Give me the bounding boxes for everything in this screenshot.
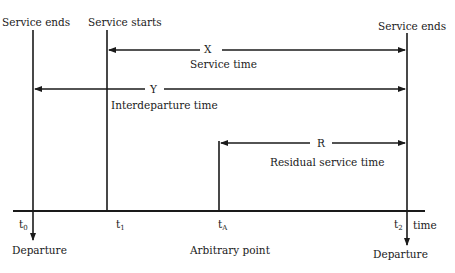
label-service-starts: Service starts bbox=[88, 17, 162, 28]
y-caption-interdeparture-time: Interdeparture time bbox=[111, 100, 218, 111]
label-departure-left: Departure bbox=[12, 245, 67, 256]
tick-t1: t1 bbox=[116, 219, 125, 232]
r-symbol: R bbox=[317, 138, 325, 149]
tick-t2: t2 bbox=[394, 219, 403, 232]
x-caption-service-time: Service time bbox=[190, 59, 257, 70]
x-symbol: X bbox=[204, 44, 211, 55]
r-caption-residual-service-time: Residual service time bbox=[270, 157, 384, 168]
label-service-ends-right: Service ends bbox=[378, 21, 446, 32]
diagram-lines bbox=[0, 0, 455, 273]
label-departure-right: Departure bbox=[373, 249, 428, 260]
tick-tA: tA bbox=[218, 219, 227, 232]
residual-service-time-diagram: Service ends Service starts Service ends… bbox=[0, 0, 455, 273]
tick-t0: t0 bbox=[19, 219, 28, 232]
label-arbitrary-point: Arbitrary point bbox=[190, 245, 270, 256]
y-symbol: Y bbox=[150, 84, 157, 95]
axis-label-time: time bbox=[413, 220, 437, 231]
label-service-ends-left: Service ends bbox=[2, 17, 70, 28]
